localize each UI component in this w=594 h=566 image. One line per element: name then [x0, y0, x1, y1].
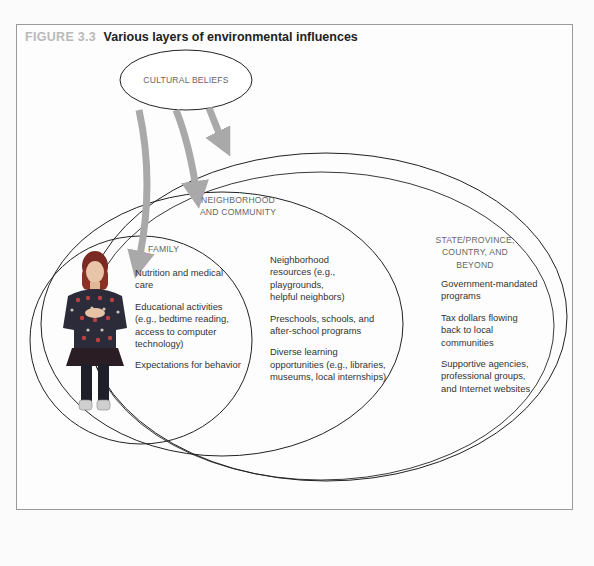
state-label-line2: COUNTRY, AND BEYOND: [425, 246, 525, 271]
cultural-beliefs-label: CULTURAL BELIEFS: [132, 74, 240, 86]
neighborhood-item: Neighborhood resources (e.g., playground…: [270, 254, 350, 304]
state-item: Supportive agencies, professional groups…: [441, 358, 539, 395]
arrow-to-state: [209, 108, 224, 144]
arrow-to-family: [138, 110, 147, 265]
state-items: Government-mandated programs Tax dollars…: [441, 278, 539, 404]
neighborhood-items: Neighborhood resources (e.g., playground…: [270, 254, 392, 393]
neighborhood-label: NEIGHBORHOOD AND COMMUNITY: [190, 194, 286, 219]
family-item: Nutrition and medical care: [135, 267, 243, 292]
state-label-line1: STATE/PROVINCE,: [425, 234, 525, 246]
state-label: STATE/PROVINCE, COUNTRY, AND BEYOND: [425, 234, 525, 271]
family-item: Expectations for behavior: [135, 359, 243, 371]
family-item: Educational activities (e.g., bedtime re…: [135, 301, 243, 351]
state-item: Tax dollars flowing back to local commun…: [441, 312, 539, 349]
state-item: Government-mandated programs: [441, 278, 539, 303]
neighborhood-item: Diverse learning opportunities (e.g., li…: [270, 346, 392, 383]
neighborhood-label-line1: NEIGHBORHOOD: [190, 194, 286, 206]
family-label: FAMILY: [148, 243, 208, 255]
family-items: Nutrition and medical care Educational a…: [135, 267, 243, 381]
arrow-to-neighborhood: [176, 110, 197, 195]
neighborhood-item: Preschools, schools, and after-school pr…: [270, 313, 392, 338]
child-illustration: [63, 251, 127, 410]
neighborhood-label-line2: AND COMMUNITY: [190, 206, 286, 218]
